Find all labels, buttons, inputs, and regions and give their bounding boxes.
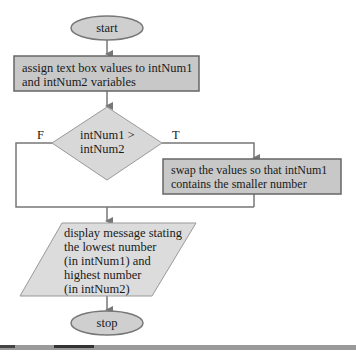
output-label-line3: (in intNum1) and	[64, 254, 151, 268]
false-branch-label: F	[37, 128, 44, 142]
output-label-line2: the lowest number	[64, 240, 156, 254]
output-label-line1: display message stating	[64, 226, 182, 240]
assign-label-line1: assign text box values to intNum1	[22, 61, 192, 75]
swap-label-line2: contains the smaller number	[171, 177, 307, 191]
output-label-line5: (in intNum2)	[64, 282, 130, 296]
bottom-rule-accent-2	[54, 345, 94, 348]
start-label: start	[90, 21, 124, 35]
output-label-line4: highest number	[64, 268, 141, 282]
bottom-rule-accent-1	[0, 345, 15, 348]
assign-label-line2: and intNum2 variables	[22, 75, 136, 89]
swap-label-line1: swap the values so that intNum1	[171, 163, 327, 177]
true-branch-label: T	[172, 128, 180, 142]
stop-label: stop	[90, 316, 124, 330]
decision-label-line1: intNum1 >	[80, 128, 135, 142]
decision-label-line2: intNum2	[80, 142, 124, 156]
true-branch-line	[162, 143, 254, 158]
bottom-rule	[0, 345, 356, 350]
